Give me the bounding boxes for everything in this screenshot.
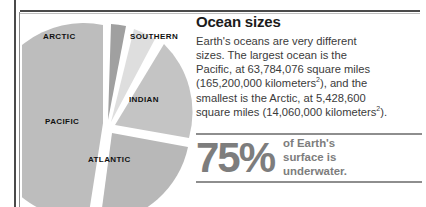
ocean-pie-chart: ARCTIC SOUTHERN INDIAN PACIFIC ATLANTIC [22, 16, 194, 207]
pie-slice-pacific[interactable] [22, 23, 103, 207]
stat-rule-bottom [196, 181, 422, 183]
pie-label-indian: INDIAN [129, 95, 159, 104]
body-line-6a: square miles (14,060,000 kilometers [196, 106, 376, 118]
body-line-4a: (165,200,000 kilometers [196, 77, 316, 89]
pie-chart-svg [22, 16, 194, 207]
body-line-3: Pacific, at 63,784,076 square miles [196, 63, 370, 75]
stat-caption-line-1: of Earth's [283, 137, 335, 149]
ocean-sizes-infographic: ARCTIC SOUTHERN INDIAN PACIFIC ATLANTIC … [0, 0, 426, 207]
top-divider-rule [20, 10, 420, 12]
pie-slice-atlantic[interactable] [100, 133, 188, 207]
stat-percentage: 75% [196, 137, 274, 179]
body-line-4b: ), and the [320, 77, 367, 89]
stat-caption: of Earth's surface is underwater. [283, 137, 347, 178]
stat-caption-line-2: surface is [283, 151, 336, 163]
page-left-border-inner [19, 12, 20, 207]
pie-label-southern: SOUTHERN [130, 32, 178, 41]
pie-label-arctic: ARCTIC [43, 32, 76, 41]
text-panel: Ocean sizes Earth's oceans are very diff… [196, 14, 422, 119]
stat-caption-line-3: underwater. [283, 165, 347, 177]
pie-label-atlantic: ATLANTIC [88, 155, 131, 164]
panel-heading: Ocean sizes [196, 14, 422, 31]
panel-body-text: Earth's oceans are very different sizes.… [196, 34, 422, 120]
body-line-5: smallest is the Arctic, at 5,428,600 [196, 92, 366, 104]
body-line-2: sizes. The largest ocean is the [196, 49, 347, 61]
stat-callout: 75% of Earth's surface is underwater. [196, 133, 422, 183]
stat-row: 75% of Earth's surface is underwater. [196, 135, 422, 180]
body-line-6b: ). [380, 106, 387, 118]
body-line-1: Earth's oceans are very different [196, 35, 357, 47]
page-left-border [14, 0, 16, 207]
pie-label-pacific: PACIFIC [45, 117, 79, 126]
